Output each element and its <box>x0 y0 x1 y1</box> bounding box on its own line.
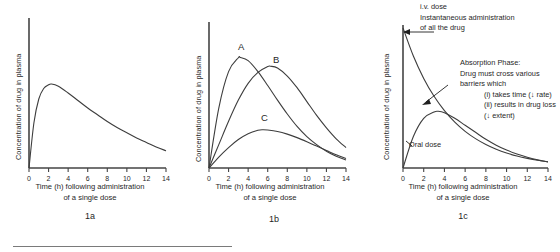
svg-text:2: 2 <box>47 175 51 182</box>
svg-text:2: 2 <box>422 175 426 182</box>
svg-text:6: 6 <box>266 175 270 182</box>
figure-panel-1b: 0 2 4 6 8 10 12 14 A B C Concentration o… <box>180 0 360 252</box>
bottom-divider-rule <box>13 246 232 247</box>
svg-text:0: 0 <box>27 175 31 182</box>
plot-1b: 0 2 4 6 8 10 12 14 A B C <box>180 0 360 200</box>
x-axis-label-line2: of a single dose <box>436 193 489 202</box>
svg-text:6: 6 <box>86 175 90 182</box>
annotation-iv-line3: of all the drug <box>420 23 515 34</box>
svg-text:6: 6 <box>463 175 467 182</box>
figure-panel-1c: 0 2 4 6 8 10 12 14 Concentration of drug… <box>360 0 560 252</box>
svg-text:0: 0 <box>207 175 211 182</box>
annotation-oral-dose: Oral dose <box>409 140 441 151</box>
svg-text:8: 8 <box>105 175 109 182</box>
y-axis-label-1b: Concentration of drug in plasma <box>194 55 203 162</box>
y-axis-label-1c: Concentration of drug in plasma <box>382 53 391 160</box>
svg-text:14: 14 <box>162 175 170 182</box>
svg-text:8: 8 <box>285 175 289 182</box>
annotation-iv-line1: i.v. dose <box>420 2 515 13</box>
curve-single-dose <box>29 84 166 168</box>
annotation-absorption-phase: Absorption Phase: Drug must cross variou… <box>460 58 556 122</box>
x-tick-labels-1c: 0 2 4 6 8 10 12 14 <box>401 175 552 182</box>
svg-text:4: 4 <box>442 175 446 182</box>
svg-text:12: 12 <box>323 175 331 182</box>
curve-label-B: B <box>273 54 279 65</box>
svg-text:14: 14 <box>544 175 552 182</box>
annotation-absorption-item-i: (i) takes time (↓ rate) <box>460 90 556 101</box>
svg-text:10: 10 <box>503 175 511 182</box>
curve-label-A: A <box>238 41 245 52</box>
panel-caption-1c: 1c <box>366 211 560 221</box>
x-axis-label-line1: Time (h) following administration <box>215 182 324 191</box>
x-axis-label-1a: Time (h) following administration of a s… <box>0 182 180 203</box>
plot-1a: 0 2 4 6 8 10 12 14 <box>0 0 180 200</box>
x-tick-labels-1a: 0 2 4 6 8 10 12 14 <box>27 175 170 182</box>
x-axis-label-line1: Time (h) following administration <box>35 182 144 191</box>
x-axis-label-line2: of a single dose <box>243 193 296 202</box>
x-axis-label-line1: Time (h) following administration <box>408 182 517 191</box>
svg-text:12: 12 <box>143 175 151 182</box>
y-axis-label-1a: Concentration of drug in plasma <box>14 53 23 160</box>
annotation-absorption-item-ii-cont: (↓ extent) <box>460 111 556 122</box>
annotation-absorption-line1: Absorption Phase: <box>460 58 556 69</box>
svg-text:2: 2 <box>227 175 231 182</box>
x-axis-label-1c: Time (h) following administration of a s… <box>366 182 560 203</box>
svg-text:0: 0 <box>401 175 405 182</box>
figure-panel-1a: 0 2 4 6 8 10 12 14 Concentration of drug… <box>0 0 180 252</box>
absorption-arrow <box>422 85 448 105</box>
annotation-absorption-line3: barriers which <box>460 79 556 90</box>
panel-caption-1b: 1b <box>184 214 364 224</box>
curve-C <box>209 130 346 168</box>
x-axis-label-line2: of a single dose <box>63 193 116 202</box>
svg-text:10: 10 <box>303 175 311 182</box>
x-axis-label-1b: Time (h) following administration of a s… <box>180 182 360 203</box>
curve-B <box>209 66 346 168</box>
svg-text:14: 14 <box>342 175 350 182</box>
svg-text:12: 12 <box>523 175 531 182</box>
svg-text:8: 8 <box>484 175 488 182</box>
annotation-iv-line2: Instantaneous administration <box>420 13 515 24</box>
annotation-iv-dose: i.v. dose Instantaneous administration o… <box>420 2 515 34</box>
svg-text:4: 4 <box>66 175 70 182</box>
annotation-absorption-item-ii: (ii) results in drug loss <box>460 100 556 111</box>
panel-caption-1a: 1a <box>0 211 180 221</box>
svg-text:4: 4 <box>246 175 250 182</box>
curve-label-C: C <box>261 112 268 123</box>
annotation-absorption-line2: Drug must cross various <box>460 69 556 80</box>
svg-text:10: 10 <box>123 175 131 182</box>
curve-A <box>209 57 346 168</box>
x-tick-labels-1b: 0 2 4 6 8 10 12 14 <box>207 175 350 182</box>
